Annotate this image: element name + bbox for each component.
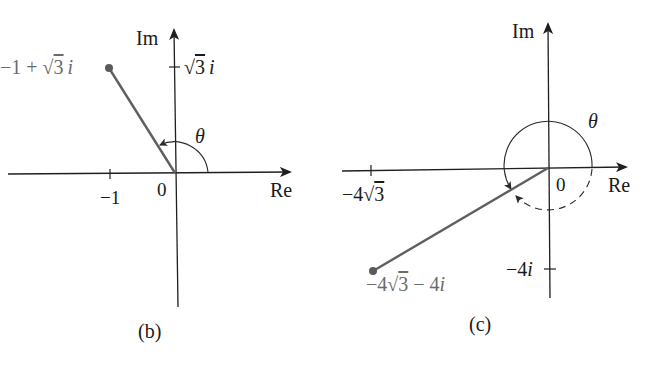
point-label-c: −4√3 − 4i <box>366 273 445 295</box>
point-label-b: −1 + √3i <box>0 56 73 78</box>
re-label-b: Re <box>270 179 292 201</box>
caption-b: (b) <box>138 320 161 343</box>
point-b <box>105 64 113 72</box>
svg-text:−4√3: −4√3 <box>342 183 384 205</box>
origin-label-c: 0 <box>556 174 566 195</box>
theta-label-c: θ <box>588 110 598 132</box>
vector-b <box>109 68 175 173</box>
re-axis <box>342 167 626 171</box>
theta-label-b: θ <box>195 125 205 147</box>
svg-text:√3i: √3i <box>184 56 215 78</box>
theta-arc-dashed-c <box>516 169 592 210</box>
tick-label-minus-4i: −4i <box>506 258 533 280</box>
im-axis <box>548 24 550 298</box>
complex-plane-figures: Im Re 0 −1 θ √3i −1 + √3i (b) Im R <box>0 0 664 367</box>
im-axis <box>174 30 178 307</box>
im-label-b: Im <box>136 27 159 49</box>
re-label-c: Re <box>608 174 630 196</box>
svg-text:−4i: −4i <box>506 258 533 280</box>
caption-c: (c) <box>469 313 491 336</box>
tick-label-sqrt3-i: √3i <box>184 56 215 78</box>
tick-label-minus-4sqrt3: −4√3 <box>342 183 384 205</box>
vector-c <box>373 168 548 271</box>
im-label-c: Im <box>512 20 535 42</box>
diagram-b: Im Re 0 −1 θ √3i −1 + √3i (b) <box>0 27 292 343</box>
re-axis <box>8 172 290 174</box>
diagram-c: Im Re 0 θ −4√3 −4i −4√3 − 4i (c) <box>342 20 630 336</box>
origin-label-b: 0 <box>157 179 167 200</box>
theta-arc-solid-c <box>504 121 592 189</box>
svg-text:−4√3 − 4i: −4√3 − 4i <box>366 273 445 295</box>
svg-text:−1 + √3i: −1 + √3i <box>0 56 73 78</box>
tick-label-minus-1: −1 <box>100 187 120 208</box>
